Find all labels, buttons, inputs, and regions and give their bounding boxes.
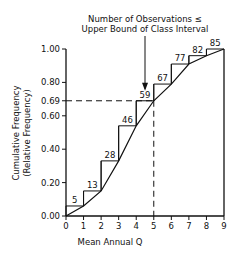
y-axis-label-2: (Relative Frequency): [22, 89, 32, 177]
step-count-label: 82: [192, 45, 203, 55]
step-count-label: 59: [140, 90, 151, 100]
step-count-label: 77: [175, 53, 186, 63]
step-count-label: 28: [104, 150, 115, 160]
x-axis-label: Mean Annual Q: [78, 237, 143, 247]
y-tick-label: 0.00: [41, 211, 60, 221]
annotation-line2: Upper Bound of Class Interval: [82, 24, 209, 34]
y-axis-label-1: Cumulative Frequency: [11, 85, 21, 180]
step-count-label: 67: [157, 73, 168, 83]
cumulative-frequency-chart: Number of Observations ≤ Upper Bound of …: [0, 0, 240, 254]
step-count-label: 46: [122, 115, 133, 125]
x-tick-label: 6: [169, 221, 174, 231]
step-count-label: 5: [72, 195, 77, 205]
x-tick-label: 7: [186, 221, 191, 231]
x-tick-label: 2: [98, 221, 103, 231]
x-tick-label: 0: [63, 221, 68, 231]
y-tick-label: 1.00: [41, 44, 60, 54]
x-tick-label: 4: [134, 221, 139, 231]
y-tick-label: 0.69: [41, 96, 60, 106]
x-tick-label: 1: [81, 221, 86, 231]
y-tick-label: 0.20: [41, 178, 60, 188]
chart-plot: 01234567890.000.200.400.600.690.801.0051…: [41, 36, 227, 231]
y-tick-label: 0.80: [41, 77, 60, 87]
y-tick-label: 0.40: [41, 144, 60, 154]
x-tick-label: 5: [151, 221, 156, 231]
annotation-line1: Number of Observations ≤: [88, 14, 202, 24]
x-tick-label: 9: [221, 221, 226, 231]
y-tick-label: 0.60: [41, 111, 60, 121]
step-count-label: 13: [87, 180, 98, 190]
x-tick-label: 3: [116, 221, 121, 231]
step-count-label: 85: [210, 38, 221, 48]
x-tick-label: 8: [204, 221, 209, 231]
